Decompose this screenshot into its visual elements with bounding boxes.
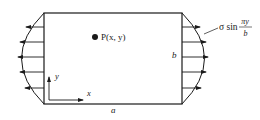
left-load-distribution — [18, 13, 44, 104]
point-label: P(x, y) — [101, 32, 126, 42]
load-numerator: πy — [241, 17, 249, 26]
load-denominator: b — [244, 29, 248, 38]
height-label: b — [172, 50, 177, 60]
y-axis-label: y — [54, 71, 59, 81]
width-label: a — [111, 105, 116, 115]
point-dot-icon — [92, 34, 98, 40]
load-formula: σ sin πy b — [219, 17, 252, 38]
coordinate-axes: y x — [49, 71, 91, 100]
point-p: P(x, y) — [92, 32, 126, 42]
leader-line — [204, 28, 218, 34]
load-prefix: σ sin — [219, 22, 238, 32]
plate — [44, 13, 182, 104]
right-load-distribution — [182, 13, 218, 104]
diagram-canvas: σ sin πy b P(x, y) b a y x — [0, 0, 260, 120]
x-axis-label: x — [86, 88, 91, 98]
